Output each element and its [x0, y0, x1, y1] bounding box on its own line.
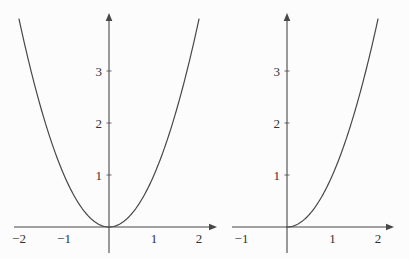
y-tick-label: 3: [96, 64, 103, 79]
x-tick-label: 2: [196, 231, 203, 246]
x-tick-label: −1: [235, 231, 249, 246]
y-tick-label: 3: [274, 64, 281, 79]
x-axis-arrow-icon: [386, 224, 394, 231]
x-tick-label: 1: [151, 231, 158, 246]
x-axis-arrow-icon: [209, 224, 217, 231]
parabola-curve: [287, 19, 378, 227]
x-tick-label: −1: [57, 231, 71, 246]
x-tick-label: −2: [12, 231, 26, 246]
y-tick-label: 1: [274, 168, 281, 183]
y-tick-label: 2: [274, 116, 281, 131]
y-tick-label: 1: [96, 168, 103, 183]
left-parabola-plot: 123−2−112: [12, 13, 217, 253]
y-axis-arrow-icon: [284, 13, 291, 21]
y-tick-label: 2: [96, 116, 103, 131]
figure-two-parabolas: 123−2−112123−112: [0, 0, 409, 259]
parabola-plots-canvas: 123−2−112123−112: [0, 0, 409, 259]
y-axis-arrow-icon: [106, 13, 113, 21]
x-tick-label: 1: [329, 231, 336, 246]
x-tick-label: 2: [375, 231, 382, 246]
right-parabola-plot: 123−112: [232, 13, 394, 253]
